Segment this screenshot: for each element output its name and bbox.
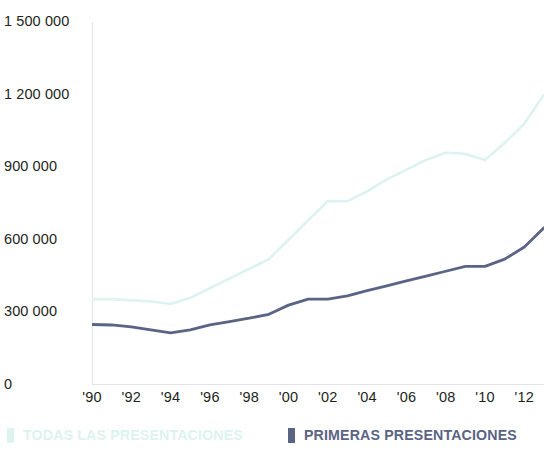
- x-axis-tick-label: '12: [515, 389, 535, 405]
- x-axis-tick-label: '02: [318, 389, 338, 405]
- x-axis-tick-label: '00: [279, 389, 299, 405]
- legend-label: TODAS LAS PRESENTACIONES: [23, 427, 243, 443]
- y-axis-tick-label: 1 500 000: [4, 13, 88, 29]
- chart-legend: TODAS LAS PRESENTACIONES PRIMERAS PRESEN…: [0, 424, 544, 450]
- x-axis-labels: '90'92'94'96'98'00'02'04'06'08'10'12: [92, 389, 544, 413]
- legend-swatch-icon: [288, 428, 295, 443]
- y-axis-tick-label: 0: [4, 376, 88, 392]
- line-chart-svg: [92, 22, 544, 385]
- series-line-todas-las-presentaciones: [92, 95, 544, 304]
- plot-area: [92, 22, 544, 385]
- x-axis-tick-label: '92: [122, 389, 142, 405]
- legend-label: PRIMERAS PRESENTACIONES: [304, 427, 517, 443]
- y-axis-tick-label: 300 000: [4, 303, 88, 319]
- x-axis-tick-label: '98: [239, 389, 259, 405]
- x-axis-tick-label: '06: [397, 389, 417, 405]
- x-axis-tick-label: '08: [436, 389, 456, 405]
- x-axis-tick-label: '94: [161, 389, 181, 405]
- y-axis-tick-label: 600 000: [4, 231, 88, 247]
- legend-swatch-icon: [7, 428, 14, 443]
- y-axis-tick-label: 1 200 000: [4, 86, 88, 102]
- legend-item-primeras-presentaciones[interactable]: PRIMERAS PRESENTACIONES: [288, 424, 517, 446]
- x-axis-tick-label: '96: [200, 389, 220, 405]
- y-axis-tick-label: 900 000: [4, 158, 88, 174]
- legend-item-todas-las-presentaciones[interactable]: TODAS LAS PRESENTACIONES: [7, 424, 243, 446]
- chart-page: 0300 000600 000900 0001 200 0001 500 000…: [0, 0, 544, 450]
- series-line-primeras-presentaciones: [92, 228, 544, 333]
- y-axis-labels: 0300 000600 000900 0001 200 0001 500 000: [2, 0, 88, 450]
- x-axis-tick-label: '10: [475, 389, 495, 405]
- x-axis-tick-label: '90: [82, 389, 102, 405]
- x-axis-tick-label: '04: [357, 389, 377, 405]
